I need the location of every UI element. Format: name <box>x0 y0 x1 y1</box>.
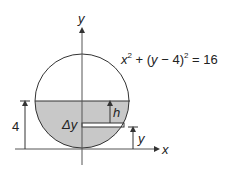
equation-label: x2 + (y − 4)2 = 16 <box>121 52 218 66</box>
x-axis-label: x <box>162 143 169 156</box>
y-height-label: y <box>138 132 145 145</box>
delta-y-label: Δy <box>62 118 77 131</box>
y-axis-label: y <box>78 12 85 25</box>
tank-diagram <box>0 0 232 172</box>
four-label: 4 <box>12 120 19 133</box>
h-label: h <box>113 106 120 119</box>
strip-delta-y <box>82 123 124 127</box>
